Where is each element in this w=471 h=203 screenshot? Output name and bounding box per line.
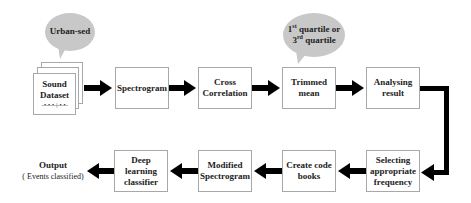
urban-sed-bubble: Urban-sed: [45, 26, 95, 37]
cross-correlation-line-1: Cross: [214, 77, 236, 88]
arrow-cross-correlation-to-trimmed-mean: [252, 80, 280, 96]
arrow-classifier-to-output: [87, 163, 114, 179]
sound-dataset-node: Sound Dataset –•–•–•–|–•–•–: [33, 73, 76, 115]
deep-learning-classifier-node: Deep learning classifier: [114, 150, 168, 192]
arrow-codebooks-to-modified-spectrogram: [254, 163, 282, 179]
code-books-line-1: Create code: [286, 160, 332, 171]
sound-dataset-line-2: Dataset: [40, 90, 69, 101]
modified-spectrogram-line-2: Spectrogram: [200, 171, 250, 182]
selecting-line-1: Selecting: [376, 155, 411, 166]
flow-diagram: Urban-sed 1st quartile or 3rd quartile S…: [0, 0, 471, 203]
output-subtitle: ( Events classified): [18, 171, 88, 182]
output-label: Output ( Events classified): [18, 160, 88, 182]
arrow-selecting-to-codebooks: [338, 163, 366, 179]
cross-correlation-line-2: Correlation: [203, 88, 248, 99]
modified-spectrogram-node: Modified Spectrogram: [198, 150, 252, 192]
quartile-bubble: 1st quartile or 3rd quartile: [283, 24, 345, 46]
cross-correlation-node: Cross Correlation: [198, 67, 252, 109]
analysing-result-line-1: Analysing: [374, 77, 413, 88]
urban-sed-label: Urban-sed: [50, 26, 91, 36]
arrow-dataset-to-spectrogram: [84, 80, 112, 96]
spectrogram-node: Spectrogram: [115, 67, 169, 109]
arrow-analysing-to-selecting: [420, 86, 449, 181]
classifier-line-2: classifier: [124, 177, 158, 188]
arrow-spectrogram-to-cross-correlation: [168, 80, 196, 96]
trimmed-mean-node: Trimmed mean: [282, 67, 336, 109]
quartile-line-1: 1st quartile or: [283, 24, 345, 35]
analysing-result-line-2: result: [382, 88, 404, 99]
selecting-line-3: frequency: [374, 177, 412, 188]
spectrogram-label: Spectrogram: [117, 83, 167, 94]
waveform-icon: –•–•–•–|–•–•–: [41, 101, 67, 109]
output-title: Output: [18, 160, 88, 171]
classifier-line-1: Deep learning: [115, 155, 167, 177]
arrow-modified-spectrogram-to-classifier: [170, 163, 198, 179]
selecting-line-2: appropriate: [370, 166, 416, 177]
analysing-result-node: Analysing result: [366, 67, 420, 109]
selecting-frequency-node: Selecting appropriate frequency: [366, 150, 420, 192]
arrow-trimmed-mean-to-analysing: [336, 80, 364, 96]
create-code-books-node: Create code books: [282, 150, 336, 192]
sound-dataset-line-1: Sound: [42, 79, 67, 90]
code-books-line-2: books: [298, 171, 321, 182]
trimmed-mean-line-2: mean: [299, 88, 320, 99]
modified-spectrogram-line-1: Modified: [208, 160, 243, 171]
trimmed-mean-line-1: Trimmed: [291, 77, 327, 88]
quartile-line-2: 3rd quartile: [283, 35, 345, 46]
